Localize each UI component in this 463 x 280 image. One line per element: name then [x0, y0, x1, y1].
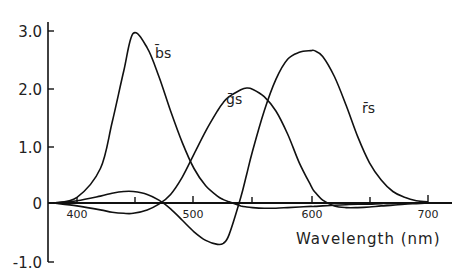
x-tick-label-500: 500 [183, 208, 204, 221]
y-tick-label-m1: -1.0 [13, 254, 42, 272]
x-tick-label-600: 600 [302, 208, 323, 221]
y-tick-label-2: 2.0 [18, 81, 42, 99]
y-tick-label-3: 3.0 [18, 23, 42, 41]
curve-label-b: b̄s [154, 44, 171, 61]
y-tick-label-1: 1.0 [18, 139, 42, 157]
x-tick-label-700: 700 [418, 208, 439, 221]
y-tick-label-0: 0 [32, 195, 42, 213]
curve-label-r: r̄s [362, 100, 375, 116]
curve-r-bar-s [54, 50, 428, 245]
curve-label-g: ḡs [226, 91, 242, 107]
spectral-tristimulus-chart: 3.0 2.0 1.0 0 -1.0 400 500 600 700 Wavel… [0, 0, 463, 280]
x-tick-label-400: 400 [67, 208, 88, 221]
curve-b-bar-s [54, 33, 428, 209]
x-ticks [77, 195, 428, 203]
x-axis-title: Wavelength (nm) [296, 230, 441, 248]
